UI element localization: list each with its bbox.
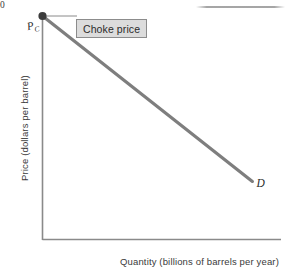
demand-curve-label: D (256, 177, 264, 189)
choke-price-callout: Choke price (76, 19, 147, 38)
axes-group (43, 16, 282, 240)
choke-price-point-marker (38, 12, 46, 20)
x-axis-title: Quantity (billions of barrels per year) (120, 256, 279, 267)
choke-price-point-group (38, 12, 46, 20)
y-axis-title: Price (dollars per barrel) (19, 21, 30, 181)
demand-curve-line (43, 16, 253, 181)
figure-canvas: Choke price PC D 0 Price (dollars per ba… (0, 0, 285, 278)
demand-curve-plot (0, 0, 285, 278)
demand-curve-group (43, 16, 253, 181)
